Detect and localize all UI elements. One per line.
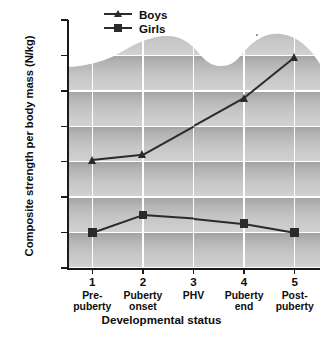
y-axis-title: Composite strength per body mass (N/kg): [23, 21, 35, 271]
x-axis-tick: [294, 268, 296, 274]
x-axis-tick: [193, 268, 195, 274]
triangle-marker-icon: [104, 8, 132, 20]
y-axis-tick: [61, 196, 68, 198]
data-point-marker: [88, 228, 97, 237]
y-axis-tick: [61, 55, 68, 57]
y-axis-tick: [61, 161, 68, 163]
cut-off-caption: [0, 329, 323, 337]
data-point-marker: [88, 156, 96, 164]
legend-entry-boys: Boys: [104, 7, 167, 21]
data-point-marker: [290, 53, 298, 61]
x-axis-tick: [243, 268, 245, 274]
gridline-vertical: [193, 20, 194, 268]
x-axis-tick: [142, 268, 144, 274]
x-axis-tick: [92, 268, 94, 274]
y-axis-tick: [61, 267, 68, 269]
x-axis-tick-name: Post-puberty: [262, 290, 323, 313]
data-point-marker: [240, 94, 248, 102]
data-point-marker: [139, 211, 148, 220]
square-marker-icon: [104, 22, 132, 34]
y-axis-tick: [61, 19, 68, 21]
data-point-marker: [138, 150, 146, 158]
y-axis-tick: [61, 90, 68, 92]
plot-background: [67, 20, 320, 268]
legend-entry-girls: Girls: [104, 21, 167, 35]
y-axis-tick: [61, 232, 68, 234]
chart-legend: Boys Girls: [104, 7, 167, 35]
data-point-marker: [290, 228, 299, 237]
x-axis-tick-number: 5: [265, 275, 323, 288]
x-axis-title: Developmental status: [0, 313, 323, 326]
chart-figure: Composite strength per body mass (N/kg) …: [0, 0, 323, 337]
legend-label-girls: Girls: [139, 22, 165, 35]
plot-area: [67, 20, 320, 268]
gridline-vertical: [243, 20, 244, 268]
data-point-marker: [240, 219, 249, 228]
legend-label-boys: Boys: [139, 8, 167, 21]
y-axis-tick: [61, 126, 68, 128]
scan-speck-artifact: [256, 34, 258, 36]
gridline-vertical: [142, 20, 143, 268]
